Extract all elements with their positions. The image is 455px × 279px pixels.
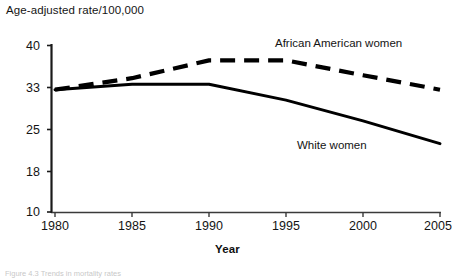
- x-tick-label-2005: 2005: [415, 219, 455, 233]
- y-tick-label-25: 25: [12, 123, 40, 137]
- y-tick-label-18: 18: [12, 165, 40, 179]
- x-tick-label-1995: 1995: [263, 219, 309, 233]
- figure-caption: Figure 4.3 Trends in mortality rates: [5, 269, 305, 279]
- y-tick-label-40: 40: [12, 39, 40, 53]
- y-tick-label-10: 10: [12, 205, 40, 219]
- x-tick-label-1985: 1985: [109, 219, 155, 233]
- y-tick-label-33: 33: [12, 81, 40, 95]
- x-axis-title: Year: [0, 243, 455, 255]
- figure-container: Age-adjusted rate/100,000 40 33: [0, 0, 455, 279]
- series-label-african-american-women: African American women: [275, 37, 402, 49]
- x-tick-label-2000: 2000: [340, 219, 386, 233]
- x-tick-label-1980: 1980: [32, 219, 78, 233]
- series-line-white-women: [55, 84, 440, 143]
- x-tick-label-1990: 1990: [186, 219, 232, 233]
- series-label-white-women: White women: [297, 139, 367, 151]
